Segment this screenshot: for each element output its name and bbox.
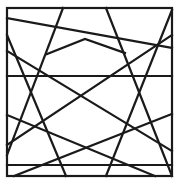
line-figure <box>0 0 179 193</box>
line-drawing-canvas <box>0 0 179 193</box>
